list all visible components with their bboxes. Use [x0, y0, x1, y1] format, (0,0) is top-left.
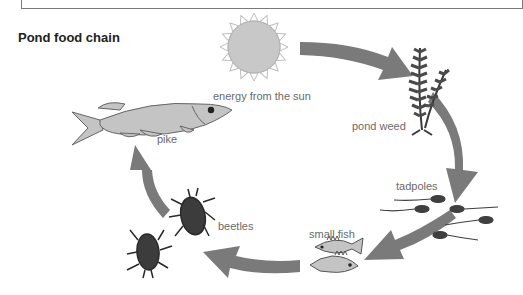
pike-icon	[72, 103, 232, 145]
label-small-fish: small fish	[309, 228, 355, 240]
label-pike: pike	[157, 133, 177, 145]
label-pond-weed: pond weed	[352, 120, 406, 132]
sun-icon	[220, 13, 288, 81]
small-fish-icon	[310, 236, 363, 272]
beetles-icon	[127, 188, 215, 278]
arrow-beetles-to-pike	[130, 145, 170, 218]
label-beetles: beetles	[218, 220, 253, 232]
arrow-smallfish-to-beetles	[203, 246, 300, 278]
arrow-sun-to-weed	[300, 42, 413, 80]
pond-weed-icon	[409, 48, 449, 135]
label-sun: energy from the sun	[213, 90, 311, 102]
label-tadpoles: tadpoles	[396, 180, 438, 192]
arrows	[130, 42, 478, 278]
